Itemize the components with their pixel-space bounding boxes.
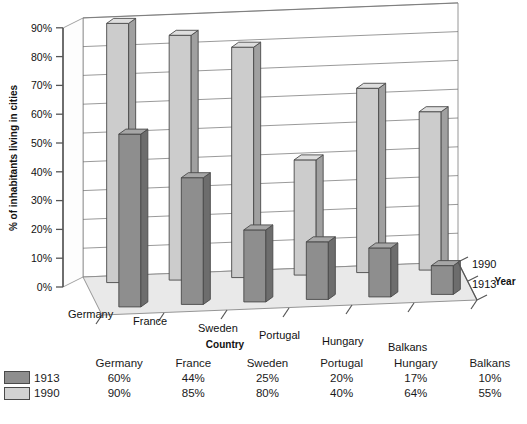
y-tick-label: 30% [31,194,52,206]
chart-page: 0% 10% 20% 30% 40% 50% 60% 70% 80% 90% %… [0,0,527,424]
y-tick-label: 60% [31,108,52,120]
bar-side-1913-Germany [141,129,148,307]
y-tick-label: 10% [31,252,52,264]
value-1990-germany: 90% [82,385,156,400]
value-1913-hungary: 17% [379,370,453,385]
y-tick-label: 90% [31,22,52,34]
value-1913-sweden: 25% [230,370,304,385]
chart-plot-area: 0% 10% 20% 30% 40% 50% 60% 70% 80% 90% %… [0,0,527,352]
bar-front-1913-Sweden [244,230,266,302]
three-d-bar-chart: 0% 10% 20% 30% 40% 50% 60% 70% 80% 90% %… [0,0,527,352]
legend-swatch-1913-cell [0,370,34,385]
z-axis-title: Year [494,276,515,287]
legend-value-table: Germany France Sweden Portugal Hungary B… [0,356,527,401]
y-tick-label: 80% [31,51,52,63]
table-header-sweden: Sweden [230,356,304,370]
chart-left-wall [63,18,83,287]
y-tick-label: 0% [37,281,52,293]
bar-side-1913-Hungary [391,243,398,297]
bar-front-1990-Balkans [419,112,441,270]
legend-series-label-1913: 1913 [34,370,82,385]
table-header-portugal: Portugal [305,356,379,370]
table-header-hungary: Hungary [379,356,453,370]
table-header-france: France [156,356,230,370]
category-label: Germany [68,308,114,320]
value-1990-france: 85% [156,385,230,400]
value-1990-hungary: 64% [379,385,453,400]
bar-front-1913-Balkans [431,266,453,295]
y-axis-tick-labels: 0% 10% 20% 30% 40% 50% 60% 70% 80% 90% [31,22,52,293]
chart-data-table: Germany France Sweden Portugal Hungary B… [0,356,527,424]
y-tick-label: 70% [31,79,52,91]
y-tick-label: 20% [31,223,52,235]
value-1990-portugal: 40% [305,385,379,400]
y-tick-label: 40% [31,166,52,178]
bar-side-1913-France [203,173,210,305]
table-header-blank-series [34,356,82,370]
category-label: Portugal [259,329,300,341]
legend-swatch-1990-icon [4,387,30,400]
value-1913-france: 44% [156,370,230,385]
category-label: France [133,315,167,327]
legend-series-label-1990: 1990 [34,385,82,400]
z-tick-label-1990: 1990 [472,258,496,270]
table-header-blank-swatch [0,356,34,370]
category-label: Sweden [198,322,238,334]
table-row: 1913 60% 44% 25% 20% 17% 10% [0,370,527,385]
y-axis-title: % of inhabitants living in cities [8,85,19,232]
bar-front-1913-France [181,178,203,305]
table-header-row: Germany France Sweden Portugal Hungary B… [0,356,527,370]
bar-front-1913-Hungary [369,248,391,297]
z-axis-labels: 1913 1990 [472,258,496,290]
table-row: 1990 90% 85% 80% 40% 64% 55% [0,385,527,400]
value-1913-portugal: 20% [305,370,379,385]
y-axis-ticks [56,28,63,287]
bar-front-1913-Germany [119,134,141,307]
legend-swatch-1913-icon [4,371,30,384]
bar-side-1990-Balkans [441,107,448,270]
category-label: Balkans [388,341,428,352]
legend-swatch-1990-cell [0,385,34,400]
value-1913-balkans: 10% [453,370,527,385]
x-axis-title: Country [206,339,245,350]
bar-side-1913-Sweden [266,225,273,302]
value-1913-germany: 60% [82,370,156,385]
value-1990-balkans: 55% [453,385,527,400]
table-header-balkans: Balkans [453,356,527,370]
value-1990-sweden: 80% [230,385,304,400]
category-label: Hungary [322,335,364,347]
y-tick-label: 50% [31,137,52,149]
bar-front-1913-Portugal [306,242,328,300]
z-tick-label-1913: 1913 [472,278,496,290]
table-header-germany: Germany [82,356,156,370]
bar-side-1913-Portugal [328,237,335,300]
